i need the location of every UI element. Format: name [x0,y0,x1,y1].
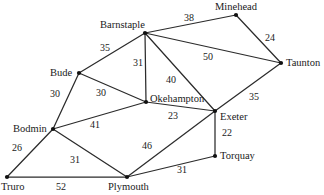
node-dot-bodmin[interactable] [51,127,55,131]
edge-weight-barnstaple-bude: 35 [100,43,110,53]
node-label-barnstaple: Barnstaple [100,20,145,31]
node-label-torquay: Torquay [220,151,255,162]
edge-bodmin-truro [7,129,53,177]
node-label-bodmin: Bodmin [13,124,47,135]
edge-barnstaple-taunton [145,33,281,63]
node-dot-taunton[interactable] [279,61,283,65]
node-label-bude: Bude [50,68,72,79]
edge-weight-bude-bodmin: 30 [50,89,60,99]
node-dot-barnstaple[interactable] [143,31,147,35]
node-label-taunton: Taunton [286,58,320,69]
node-dot-plymouth[interactable] [125,175,129,179]
edge-weight-bude-okehampton: 30 [96,88,106,98]
edge-weight-bodmin-okehampton: 41 [90,120,100,130]
node-label-minehead: Minehead [215,2,257,13]
edge-bodmin-plymouth [53,129,127,177]
edge-weight-okehampton-exeter: 23 [168,111,178,121]
edge-weight-minehead-taunton: 24 [265,33,275,43]
edge-weight-exeter-taunton: 35 [249,92,259,102]
node-label-truro: Truro [1,182,25,193]
edge-barnstaple-okehampton [145,33,146,102]
edge-weight-bodmin-plymouth: 31 [70,155,80,165]
edge-weight-barnstaple-minehead: 38 [184,13,194,23]
edge-weight-torquay-plymouth: 31 [177,165,187,175]
network-graph-diagram: 3824503531403030412335222631463152Barnst… [0,0,324,195]
edge-bude-okehampton [79,73,146,102]
edge-weight-truro-plymouth: 52 [56,182,66,192]
node-dot-bude[interactable] [77,71,81,75]
edge-bude-bodmin [53,73,79,129]
node-label-exeter: Exeter [220,112,247,123]
edge-exeter-taunton [215,63,281,111]
node-dot-okehampton[interactable] [144,100,148,104]
node-dot-truro[interactable] [5,175,9,179]
node-dot-torquay[interactable] [213,154,217,158]
edge-weight-exeter-torquay: 22 [222,128,232,138]
node-dot-exeter[interactable] [213,109,217,113]
node-label-plymouth: Plymouth [108,182,149,193]
node-label-okehampton: Okehampton [150,94,204,105]
node-dot-minehead[interactable] [234,13,238,17]
edge-weight-barnstaple-taunton: 50 [203,52,213,62]
edge-weight-exeter-plymouth: 46 [142,141,152,151]
edge-weight-bodmin-truro: 26 [12,143,22,153]
edge-weight-barnstaple-okehampton: 31 [133,58,143,68]
edge-weight-barnstaple-exeter: 40 [166,75,176,85]
